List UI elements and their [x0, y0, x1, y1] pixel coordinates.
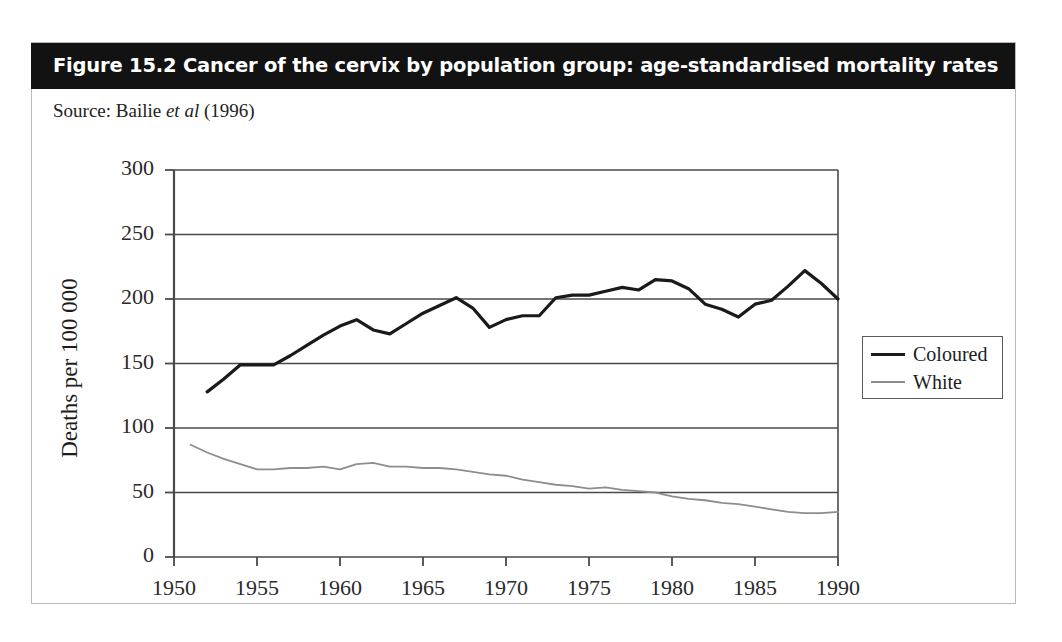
source-prefix: Source: Bailie	[53, 100, 166, 121]
source-citation: Source: Bailie et al (1996)	[53, 100, 255, 122]
figure-container: Figure 15.2 Cancer of the cervix by popu…	[0, 0, 1062, 642]
source-suffix: (1996)	[199, 100, 254, 121]
source-italic: et al	[166, 100, 199, 121]
figure-border	[31, 42, 1016, 604]
figure-title-bar: Figure 15.2 Cancer of the cervix by popu…	[31, 43, 1015, 89]
page-title: Figure 15.2 Cancer of the cervix by popu…	[53, 54, 998, 77]
